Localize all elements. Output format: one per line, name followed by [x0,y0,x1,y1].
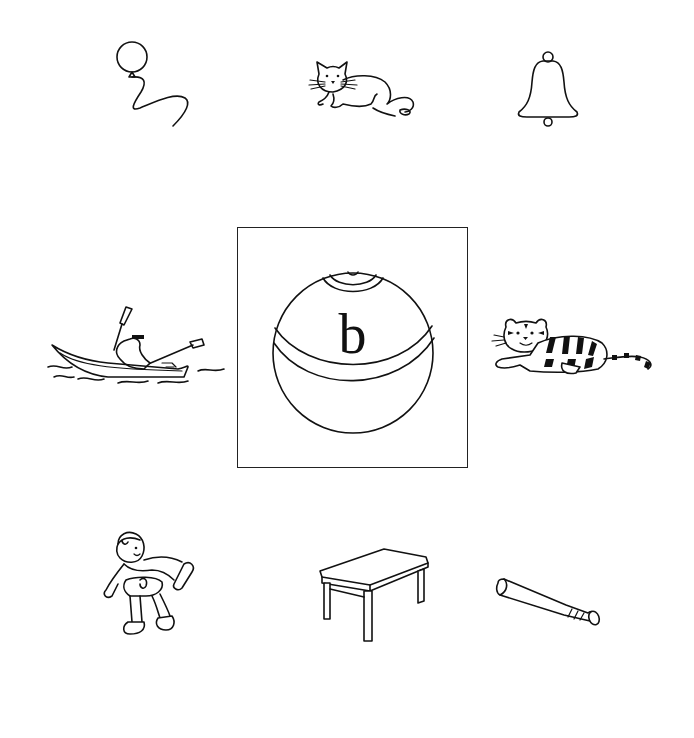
tiger-icon [490,315,660,385]
tiger-picture [490,315,660,385]
target-letter: b [238,306,467,362]
boat-icon [48,305,228,390]
table-picture [318,545,433,645]
balloon-icon [115,40,195,130]
cat-picture [305,58,415,123]
center-letter-card: b [237,227,468,468]
bell-picture [515,50,580,130]
boat-picture [48,305,228,390]
cat-icon [305,58,415,123]
table-icon [318,545,433,645]
bell-icon [515,50,580,130]
boy-icon [100,530,200,645]
boy-picture [100,530,200,645]
bat-icon [494,575,604,630]
bat-picture [494,575,604,630]
balloon-picture [115,40,195,130]
